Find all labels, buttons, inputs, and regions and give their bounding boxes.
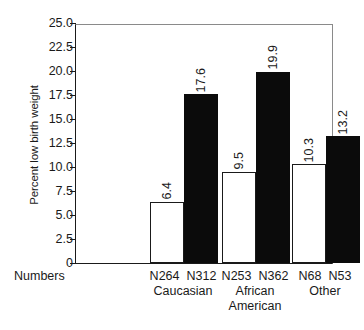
group-counts: N68N53 <box>265 269 364 284</box>
bar-value-label: 13.2 <box>337 110 350 134</box>
bar-value-label: 17.6 <box>195 68 208 92</box>
count-open-bar: N264 <box>150 269 180 284</box>
y-tick-label: 22.5 <box>49 41 73 54</box>
y-tick-label: 5.0 <box>56 209 73 222</box>
y-tick-label: 15.0 <box>49 113 73 126</box>
bar-filled-caucasian: 17.6 <box>184 94 218 263</box>
bar-open-african-american: 9.5 <box>222 172 256 263</box>
bar-value-label: 9.5 <box>233 152 246 169</box>
group-name: Other <box>265 284 364 299</box>
y-tick-label: 0 <box>66 257 73 270</box>
bar-open-other: 10.3 <box>292 164 326 263</box>
count-open-bar: N253 <box>222 269 252 284</box>
y-axis-title: Percent low birth weight <box>28 38 40 253</box>
count-filled-bar: N53 <box>329 269 352 284</box>
bar-value-label: 10.3 <box>303 138 316 162</box>
y-tick-label: 25.0 <box>49 17 73 30</box>
numbers-row-header: Numbers <box>14 269 65 283</box>
bar-value-label: 6.4 <box>161 182 174 199</box>
bar-filled-other: 13.2 <box>326 136 360 263</box>
y-tick-label: 12.5 <box>49 137 73 150</box>
bar-open-caucasian: 6.4 <box>150 202 184 263</box>
y-tick-label: 10.0 <box>49 161 73 174</box>
y-tick-label: 20.0 <box>49 65 73 78</box>
count-open-bar: N68 <box>299 269 322 284</box>
y-tick-label: 17.5 <box>49 89 73 102</box>
y-tick-label: 2.5 <box>56 233 73 246</box>
x-group-other: N68N53Other <box>265 269 364 299</box>
bar-value-label: 19.9 <box>267 46 280 70</box>
y-tick-label: 7.5 <box>56 185 73 198</box>
bar-filled-african-american: 19.9 <box>256 72 290 263</box>
plot-area: 02.55.07.510.012.515.017.520.022.525.0 6… <box>75 24 333 264</box>
